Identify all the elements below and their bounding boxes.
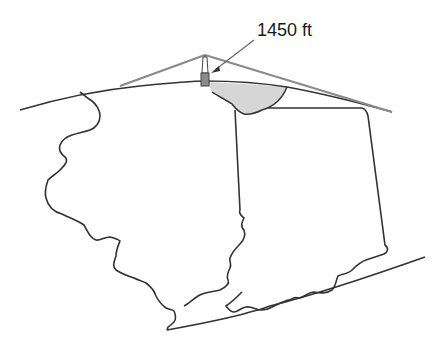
west-state-border — [45, 92, 175, 330]
east-state-border — [226, 108, 388, 312]
line-of-sight-diagram — [0, 0, 441, 345]
tower-icon — [201, 55, 209, 86]
height-label: 1450 ft — [257, 21, 312, 39]
coverage-area — [208, 82, 287, 114]
state-dividing-border — [184, 110, 245, 306]
